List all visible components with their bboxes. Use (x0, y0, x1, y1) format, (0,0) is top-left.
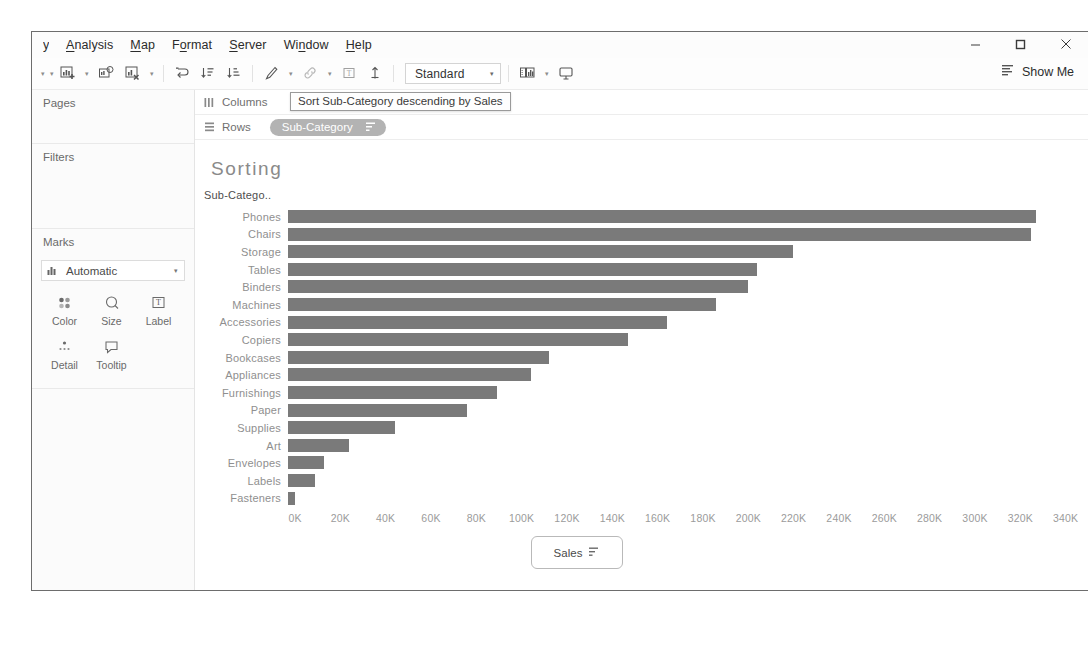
rows-shelf[interactable]: Rows Sub-Category (195, 115, 1088, 140)
chart-bar[interactable] (288, 298, 716, 311)
show-labels-icon[interactable]: T (338, 63, 360, 85)
chart-row: Chairs (195, 226, 1088, 244)
sort-descending-icon[interactable] (223, 63, 245, 85)
fix-axes-icon[interactable] (364, 63, 386, 85)
chart-bar[interactable] (288, 386, 497, 399)
chart-row-label[interactable]: Labels (195, 475, 288, 487)
chart-bar[interactable] (288, 368, 531, 381)
chart-bar[interactable] (288, 439, 349, 452)
menu-item-analysis[interactable]: Analysis (66, 38, 113, 52)
menu-bar: y Analysis Map Format Server Window Help (32, 38, 372, 52)
chart-row-label[interactable]: Paper (195, 404, 288, 416)
chart-row: Envelopes (195, 454, 1088, 472)
swap-rows-columns-icon[interactable] (171, 63, 193, 85)
sort-tooltip: Sort Sub-Category descending by Sales (290, 92, 511, 111)
x-axis-tick-label: 280K (917, 512, 942, 524)
chart-bar[interactable] (288, 456, 324, 469)
menu-item-server[interactable]: Server (229, 38, 266, 52)
x-axis-title-pill[interactable]: Sales (531, 536, 623, 569)
marks-label-button[interactable]: T Label (135, 290, 182, 334)
marks-tooltip-label: Tooltip (96, 359, 126, 371)
marks-size-label: Size (101, 315, 121, 327)
chart-row-label[interactable]: Envelopes (195, 457, 288, 469)
chart-row-label[interactable]: Chairs (195, 228, 288, 240)
menu-item-help[interactable]: Help (346, 38, 372, 52)
maximize-button[interactable] (998, 32, 1043, 56)
new-worksheet-icon[interactable] (56, 63, 78, 85)
clear-sheet-caret-icon[interactable]: ▾ (147, 64, 156, 84)
chart-bar[interactable] (288, 492, 295, 505)
group-icon[interactable] (299, 63, 321, 85)
sort-descending-icon[interactable] (589, 547, 600, 559)
chart-bar[interactable] (288, 333, 628, 346)
chart-bar[interactable] (288, 210, 1036, 223)
chart-row: Art (195, 437, 1088, 455)
chart-row-label[interactable]: Bookcases (195, 352, 288, 364)
chart-bar[interactable] (288, 351, 549, 364)
chart-bar[interactable] (288, 245, 793, 258)
bar-chart: Sub-Catego.. PhonesChairsStorageTablesBi… (195, 189, 1088, 534)
chart-bar[interactable] (288, 228, 1031, 241)
mark-type-dropdown[interactable]: Automatic ▾ (41, 260, 185, 281)
chart-bar[interactable] (288, 421, 395, 434)
highlight-caret-icon[interactable]: ▾ (286, 64, 295, 84)
group-caret-icon[interactable]: ▾ (325, 64, 334, 84)
chart-bar[interactable] (288, 263, 757, 276)
chart-bar-track (288, 366, 1088, 384)
show-me-button[interactable]: Show Me (1001, 63, 1074, 80)
menu-item-clipped[interactable]: y (43, 38, 49, 52)
x-axis-tick-label: 160K (645, 512, 670, 524)
chart-bar-track (288, 490, 1088, 508)
chart-row: Machines (195, 296, 1088, 314)
columns-icon (204, 97, 215, 108)
fit-axes-caret-icon[interactable]: ▾ (542, 64, 551, 84)
x-axis-tick-label: 260K (872, 512, 897, 524)
chart-row-label[interactable]: Fasteners (195, 492, 288, 504)
chart-row-label[interactable]: Tables (195, 264, 288, 276)
menu-item-window[interactable]: Window (284, 38, 329, 52)
back-caret-icon[interactable]: ▾ (38, 64, 47, 84)
marks-color-button[interactable]: Color (41, 290, 88, 334)
chart-row-label[interactable]: Binders (195, 281, 288, 293)
menu-item-map[interactable]: Map (130, 38, 155, 52)
sort-ascending-icon[interactable] (197, 63, 219, 85)
chart-row-label[interactable]: Accessories (195, 316, 288, 328)
window-controls (953, 32, 1088, 56)
highlight-icon[interactable] (260, 63, 282, 85)
forward-caret-icon[interactable]: ▾ (47, 64, 56, 84)
chart-row-label[interactable]: Appliances (195, 369, 288, 381)
chart-row-label[interactable]: Machines (195, 299, 288, 311)
chart-row-label[interactable]: Art (195, 440, 288, 452)
chart-row-label[interactable]: Phones (195, 211, 288, 223)
marks-label-label: Label (146, 315, 172, 327)
chart-bar[interactable] (288, 404, 467, 417)
minimize-button[interactable] (953, 32, 998, 56)
fit-axes-icon[interactable] (516, 63, 538, 85)
close-button[interactable] (1043, 32, 1088, 56)
rows-shelf-label: Rows (222, 121, 251, 133)
sort-descending-icon[interactable] (366, 122, 377, 132)
chart-row-label[interactable]: Copiers (195, 334, 288, 346)
duplicate-sheet-icon[interactable] (95, 63, 117, 85)
chart-bar[interactable] (288, 280, 748, 293)
marks-card-body: Automatic ▾ Color (32, 254, 194, 388)
menu-item-format[interactable]: Format (172, 38, 212, 52)
marks-tooltip-button[interactable]: Tooltip (88, 334, 135, 378)
fit-dropdown[interactable]: Standard ▾ (405, 63, 501, 84)
x-axis-tick-label: 300K (962, 512, 987, 524)
presentation-mode-icon[interactable] (555, 63, 577, 85)
x-axis-tick-label: 120K (554, 512, 579, 524)
chart-bar[interactable] (288, 316, 667, 329)
clear-sheet-icon[interactable] (121, 63, 143, 85)
filters-card[interactable]: Filters (32, 144, 194, 229)
chart-row-label[interactable]: Furnishings (195, 387, 288, 399)
chart-bar[interactable] (288, 474, 315, 487)
chart-bar-track (288, 454, 1088, 472)
chart-row-label[interactable]: Supplies (195, 422, 288, 434)
marks-size-button[interactable]: Size (88, 290, 135, 334)
rows-pill-sub-category[interactable]: Sub-Category (270, 119, 386, 136)
chart-row-label[interactable]: Storage (195, 246, 288, 258)
new-worksheet-caret-icon[interactable]: ▾ (82, 64, 91, 84)
marks-detail-button[interactable]: Detail (41, 334, 88, 378)
columns-shelf[interactable]: Columns Sort Sub-Category descending by … (195, 90, 1088, 115)
